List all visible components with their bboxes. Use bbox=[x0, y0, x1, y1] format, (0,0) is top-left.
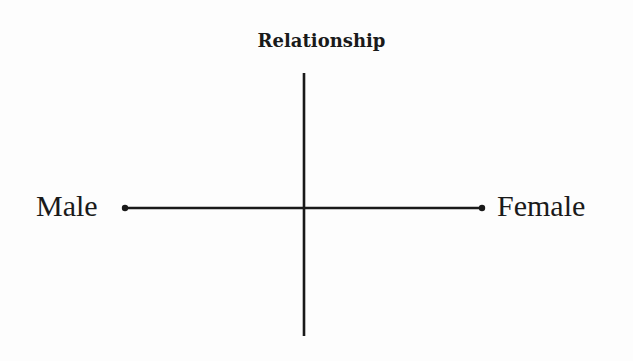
axes bbox=[0, 0, 633, 361]
left-endpoint-dot-icon bbox=[122, 205, 128, 211]
horizontal-axis-right-label: Female bbox=[497, 188, 585, 224]
diagram-canvas: Relationship Male Female bbox=[0, 0, 633, 361]
horizontal-axis-left-label: Male bbox=[36, 188, 98, 224]
right-endpoint-dot-icon bbox=[479, 205, 485, 211]
